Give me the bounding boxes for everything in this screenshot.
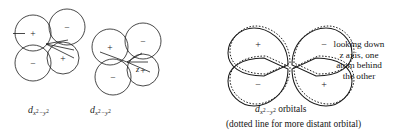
orbital-sub-exp-2: 2 xyxy=(46,108,49,114)
orbital-sub-exp-2: 2 xyxy=(108,108,111,114)
sign-b-bottom-left: − xyxy=(110,73,115,83)
sign-b-bottom-right: + xyxy=(140,66,145,76)
note-line-3: atom behind xyxy=(322,60,396,71)
lobe-near-top-left xyxy=(228,28,288,76)
charge-signs-right: + − − + xyxy=(255,39,327,90)
dotted-line-note: (dotted line for more distant orbital) xyxy=(226,119,361,129)
orbital-caption-trailing: orbitals xyxy=(276,104,306,114)
right-orbital-caption: dx2−y2 orbitals xyxy=(255,103,306,115)
note-line-1: looking down xyxy=(322,39,396,50)
looking-down-z-axis-note: looking down z axis, one atom behind the… xyxy=(322,39,396,81)
sign-a-bottom-left: − xyxy=(30,59,35,69)
sign-a-top-left: + xyxy=(30,29,35,39)
sign-bottom-left: − xyxy=(255,79,261,90)
left-orbital-label-2: dx2−y2 xyxy=(90,104,111,116)
sign-b-top-left: + xyxy=(107,43,112,53)
z-axis-label: z xyxy=(136,65,139,74)
sign-top-left: + xyxy=(255,39,261,50)
charge-signs-set-b: + − − + xyxy=(107,37,145,83)
note-line-4: the other xyxy=(322,71,396,82)
sign-b-top-right: − xyxy=(140,37,145,47)
sign-a-bottom-right: + xyxy=(60,54,65,64)
note-line-2: z axis, one xyxy=(322,50,396,61)
sign-a-top-right: − xyxy=(64,23,69,33)
left-orbital-label-1: dx2−y2 xyxy=(28,104,49,116)
